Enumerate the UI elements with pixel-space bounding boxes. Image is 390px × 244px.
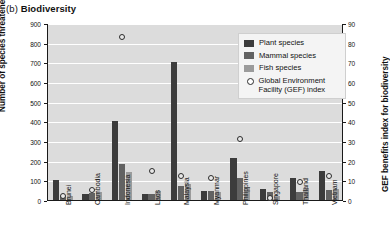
bar-plant — [112, 121, 118, 200]
bar-plant — [230, 158, 236, 200]
bar-plant — [142, 194, 148, 200]
bar-group — [137, 24, 167, 200]
panel-label: (b) — [6, 3, 18, 14]
figure-title: (b) Biodiversity — [6, 3, 76, 14]
y-axis-right-tick: 20 — [348, 158, 368, 165]
y-axis-left-tick: 200 — [17, 158, 41, 165]
y-axis-right-tick: 30 — [348, 139, 368, 146]
gef-index-marker — [149, 168, 155, 174]
mammal-species-swatch-icon — [244, 52, 254, 59]
bar-plant — [171, 62, 177, 200]
bar-group — [107, 24, 137, 200]
y-axis-right-tickmark — [343, 201, 346, 202]
y-axis-left-tick: 500 — [17, 99, 41, 106]
y-axis-right-tick: 70 — [348, 60, 368, 67]
legend-label: Global Environment Facility (GEF) index — [259, 76, 340, 94]
bar-group — [78, 24, 108, 200]
y-axis-right-tick: 0 — [348, 198, 368, 205]
x-axis-label-malaysia: Malaysia — [183, 177, 190, 205]
y-axis-left-label: Number of species threatened (2014) — [0, 0, 7, 112]
bar-plant — [53, 180, 59, 200]
x-axis-label-laos: Laos — [154, 190, 161, 205]
legend-item-plant: Plant species — [244, 38, 339, 47]
legend-label: Plant species — [259, 38, 304, 47]
x-axis-label-myanmar: Myanmar — [213, 176, 220, 205]
fish-species-swatch-icon — [244, 65, 254, 72]
bar-group — [196, 24, 226, 200]
y-axis-left-tick: 900 — [17, 21, 41, 28]
bar-plant — [82, 194, 88, 200]
legend-item-gef: Global Environment Facility (GEF) index — [244, 76, 339, 94]
open-circle-marker-icon — [247, 78, 254, 85]
y-axis-left-tick: 700 — [17, 60, 41, 67]
y-axis-left-tick: 0 — [17, 198, 41, 205]
y-axis-left-tick: 100 — [17, 178, 41, 185]
biodiversity-chart-figure: (b) Biodiversity Number of species threa… — [0, 0, 390, 244]
bar-plant — [201, 191, 207, 200]
bar-plant — [290, 178, 296, 200]
gef-index-marker — [119, 34, 125, 40]
x-axis-label-brunei: Brunei — [65, 185, 72, 205]
page-title: Biodiversity — [21, 3, 77, 14]
bar-group — [48, 24, 78, 200]
bar-plant — [319, 171, 325, 201]
y-axis-left-tick: 400 — [17, 119, 41, 126]
y-axis-right-label: GEF benefits index for biodiversity — [381, 56, 390, 192]
y-axis-right-tick: 40 — [348, 119, 368, 126]
gef-index-marker — [237, 136, 243, 142]
x-axis-label-thailand: Thailand — [302, 178, 309, 205]
bar-plant — [260, 189, 266, 200]
plant-species-swatch-icon — [244, 40, 254, 47]
legend-item-fish: Fish species — [244, 63, 339, 72]
x-axis-label-singapore: Singapore — [272, 173, 279, 205]
y-axis-right-tick: 80 — [348, 40, 368, 47]
y-axis-left-tick: 800 — [17, 40, 41, 47]
y-axis-left-tick: 300 — [17, 139, 41, 146]
y-axis-left-tickmark — [44, 201, 47, 202]
x-axis-label-philippines: Philippines — [242, 171, 249, 205]
y-axis-left-tick: 600 — [17, 80, 41, 87]
x-axis-label-vietnam: Vietnam — [331, 179, 338, 205]
x-axis-label-cambodia: Cambodia — [94, 173, 101, 205]
y-axis-right-tick: 90 — [348, 21, 368, 28]
x-axis-label-indonesia: Indonesia — [124, 175, 131, 205]
legend: Plant species Mammal species Fish specie… — [238, 33, 346, 99]
y-axis-right-tick: 60 — [348, 80, 368, 87]
y-axis-right-tick: 10 — [348, 178, 368, 185]
legend-label: Fish species — [259, 63, 301, 72]
y-axis-right-tick: 50 — [348, 99, 368, 106]
bar-group — [166, 24, 196, 200]
legend-label: Mammal species — [259, 51, 316, 60]
legend-item-mammal: Mammal species — [244, 51, 339, 60]
